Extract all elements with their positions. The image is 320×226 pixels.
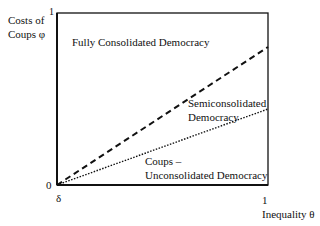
region-label-coups-line1: Coups – bbox=[145, 155, 181, 168]
diagram-canvas bbox=[0, 0, 320, 226]
x-axis-label: Inequality θ bbox=[262, 208, 315, 221]
x-axis-max-tick: 1 bbox=[262, 194, 268, 207]
region-label-coups-line2: Unconsolidated Democracy bbox=[145, 169, 267, 182]
y-axis-label-line2: Coups φ bbox=[8, 28, 45, 41]
region-label-fully-consolidated: Fully Consolidated Democracy bbox=[72, 36, 209, 49]
y-axis-min-tick: 0 bbox=[46, 179, 52, 192]
region-label-semiconsolidated-line2: Democracy bbox=[188, 111, 239, 124]
x-axis-min-tick: δ bbox=[56, 192, 61, 205]
y-axis-label-line1: Costs of bbox=[8, 14, 44, 27]
y-axis-max-tick: 1 bbox=[49, 6, 54, 17]
region-label-semiconsolidated-line1: Semiconsolidated bbox=[188, 97, 266, 110]
